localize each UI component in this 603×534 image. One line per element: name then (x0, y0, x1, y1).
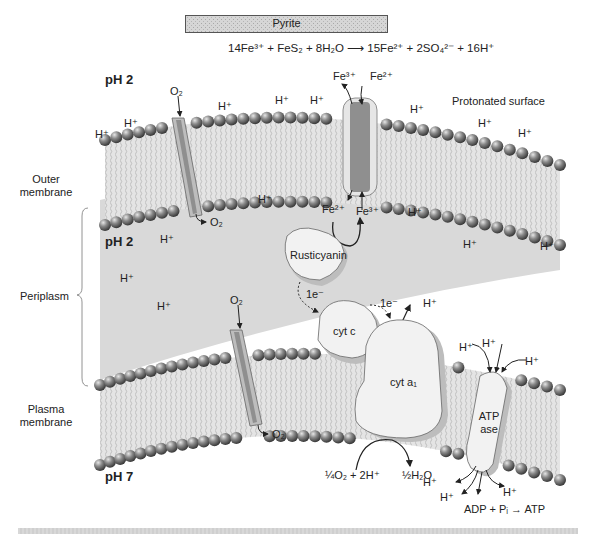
lipid-head-bead (237, 197, 249, 209)
iron-channel (342, 84, 377, 210)
lipid-head-bead (440, 445, 452, 457)
lipid-head-bead (166, 360, 178, 372)
h-plus: H⁺ (410, 103, 424, 116)
lipid-head-bead (528, 377, 540, 389)
lipid-head-bead (528, 466, 540, 478)
lipid-head-bead (332, 431, 344, 443)
lipid-head-bead (209, 434, 221, 446)
cyt-a1-label: cyt a₁ (390, 376, 417, 389)
lipid-head-bead (145, 365, 157, 377)
lipid-head-bead (145, 124, 157, 136)
rusticyanin-label: Rusticyanin (290, 249, 347, 262)
lipid-head-bead (554, 239, 566, 251)
lipid-head-bead (198, 436, 210, 448)
h-plus: H⁺ (218, 100, 232, 113)
lipid-head-bead (135, 367, 147, 379)
protonated-surface-label: Protonated surface (452, 95, 545, 108)
h-plus: H⁺ (440, 491, 454, 504)
lipid-head-bead (491, 222, 503, 234)
lipid-head-bead (429, 126, 441, 138)
h-plus: H⁺ (124, 117, 138, 130)
lipid-head-bead (168, 205, 180, 217)
cyt-c-label: cyt c (333, 325, 356, 338)
lipid-head-bead (452, 448, 464, 460)
lipid-head-bead (515, 374, 527, 386)
lipid-head-bead (99, 219, 111, 231)
lipid-head-bead (466, 134, 478, 146)
lipid-head-bead (452, 361, 464, 373)
lipid-head-bead (273, 196, 285, 208)
bottom-band (18, 528, 578, 534)
lipid-head-bead (230, 432, 242, 444)
lipid-head-bead (209, 354, 221, 366)
lipid-head-bead (554, 384, 566, 396)
lipid-head-bead (124, 450, 136, 462)
lipid-head-bead (214, 199, 226, 211)
membrane-graphics (0, 0, 603, 534)
lipid-head-bead (515, 463, 527, 475)
lipid-head-bead (442, 211, 454, 223)
lipid-head-bead (442, 129, 454, 141)
lipid-head-bead (308, 112, 320, 124)
lipid-head-bead (554, 159, 566, 171)
lipid-head-bead (202, 200, 214, 212)
lipid-head-bead (454, 131, 466, 143)
lipid-head-bead (155, 363, 167, 375)
lipid-head-bead (110, 216, 122, 228)
h-plus: H⁺ (95, 128, 109, 141)
oxygen-reduction-product: ½H₂O (402, 469, 432, 482)
lipid-head-bead (504, 225, 516, 237)
lipid-head-bead (176, 358, 188, 370)
fe2-periplasm: Fe²⁺ (322, 203, 345, 216)
periplasm-brace (77, 208, 88, 386)
lipid-head-bead (237, 113, 249, 125)
lipid-head-bead (541, 381, 553, 393)
lipid-head-bead (202, 116, 214, 128)
lipid-head-bead (104, 456, 116, 468)
lipid-head-bead (503, 459, 515, 471)
periplasm-ph-label: pH 2 (105, 235, 133, 250)
lipid-head-bead (466, 216, 478, 228)
lipid-head-bead (145, 209, 157, 221)
o2-plasma-in: O₂ (230, 294, 243, 307)
h-plus: H⁺ (463, 238, 477, 251)
lipid-head-bead (114, 373, 126, 385)
lipid-head-bead (491, 140, 503, 152)
lipid-head-bead (156, 122, 168, 134)
h-plus: H⁺ (540, 240, 554, 253)
lipid-head-bead (285, 112, 297, 124)
lipid-head-bead (133, 211, 145, 223)
o2-plasma-out: O₂ (272, 428, 285, 441)
lipid-head-bead (219, 433, 231, 445)
lipid-head-bead (321, 431, 333, 443)
oxygen-reduction-reactants: ¼O₂ + 2H⁺ (325, 469, 380, 482)
lipid-head-bead (219, 352, 231, 364)
lipid-head-bead (191, 117, 203, 129)
lipid-head-bead (226, 114, 238, 126)
lipid-head-bead (114, 453, 126, 465)
iron-oxidation-diagram: Pyrite 14Fe³⁺ + FeS₂ + 8H₂O ⟶ 15Fe²⁺ + 2… (0, 0, 603, 534)
lipid-head-bead (198, 355, 210, 367)
lipid-head-bead (309, 348, 321, 360)
electron-label-2: 1e⁻ (380, 297, 398, 310)
lipid-head-bead (252, 349, 264, 361)
lipid-head-bead (273, 112, 285, 124)
fe2-outside: Fe²⁺ (370, 70, 393, 83)
lipid-head-bead (286, 348, 298, 360)
lipid-head-bead (135, 448, 147, 460)
lipid-head-bead (381, 118, 393, 130)
lipid-head-bead (541, 155, 553, 167)
lipid-head-bead (479, 137, 491, 149)
lipid-head-bead (381, 201, 393, 213)
lipid-head-bead (264, 349, 276, 361)
h-plus-pumped: H⁺ (423, 297, 437, 310)
h-plus: H⁺ (258, 193, 272, 206)
atp-synthesis-reaction: ADP + Pᵢ → ATP (464, 503, 545, 516)
outer-membrane-label: Outer membrane (16, 173, 76, 198)
o2-outer-in: O₂ (170, 85, 183, 98)
lipid-head-bead (226, 198, 238, 210)
lipid-head-bead (176, 439, 188, 451)
lipid-head-bead (504, 144, 516, 156)
electron-label-1: 1e⁻ (306, 288, 324, 301)
lipid-head-bead (320, 113, 332, 125)
